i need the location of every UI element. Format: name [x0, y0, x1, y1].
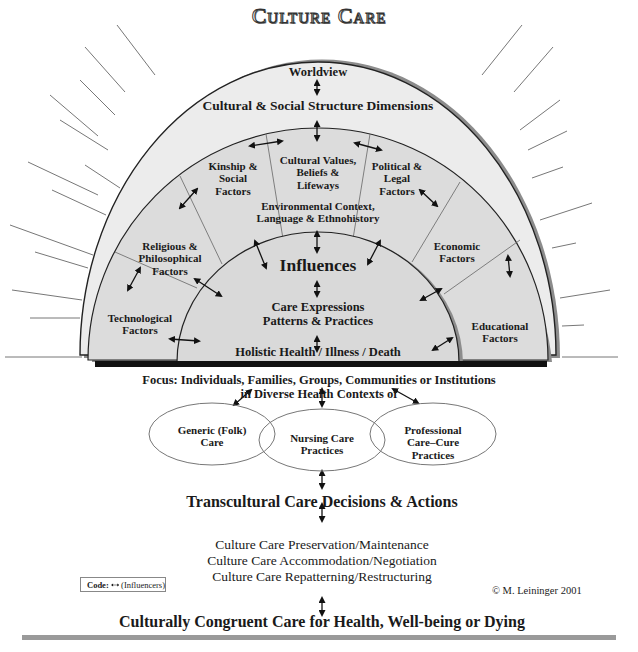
holistic-health-label: Holistic Health / Illness / Death	[218, 345, 418, 359]
professional-care-label: Professional Care–Cure Practices	[383, 424, 483, 461]
mode-accommodation: Culture Care Accommodation/Negotiation	[0, 553, 638, 568]
educational-factors-label: Educational Factors	[460, 320, 540, 345]
focus-line-2: in Diverse Health Contexts of	[0, 387, 638, 401]
focus-line-1: Focus: Individuals, Families, Groups, Co…	[0, 373, 638, 387]
kinship-factors-label: Kinship & Social Factors	[198, 160, 268, 197]
legend-code-box: Code: (Influencers)	[80, 577, 166, 592]
legend-meaning: (Influencers)	[121, 580, 165, 590]
structure-dimensions-label: Cultural & Social Structure Dimensions	[0, 98, 636, 113]
generic-care-label: Generic (Folk) Care	[162, 424, 262, 449]
mode-preservation: Culture Care Preservation/Maintenance	[0, 537, 638, 552]
cultural-values-label: Cultural Values, Beliefs & Lifeways	[268, 154, 368, 191]
base-bar	[95, 361, 547, 367]
environmental-context-label: Environmental Context, Language & Ethnoh…	[225, 200, 411, 225]
influences-label: Influences	[0, 256, 636, 276]
copyright: © M. Leininger 2001	[492, 585, 582, 596]
bottom-rule	[22, 635, 616, 640]
care-expressions-label: Care Expressions Patterns & Practices	[218, 300, 418, 328]
outcome-label: Culturally Congruent Care for Health, We…	[0, 613, 638, 631]
nursing-care-label: Nursing Care Practices	[272, 432, 372, 457]
political-factors-label: Political & Legal Factors	[362, 160, 432, 197]
worldview-label: Worldview	[0, 65, 636, 79]
legend-code-label: Code:	[87, 580, 109, 590]
diagram-title: Culture Care	[0, 4, 638, 29]
bidirectional-arrow-icon	[111, 581, 119, 589]
decisions-label: Transcultural Care Decisions & Actions	[0, 493, 638, 511]
technological-factors-label: Technological Factors	[100, 312, 180, 337]
